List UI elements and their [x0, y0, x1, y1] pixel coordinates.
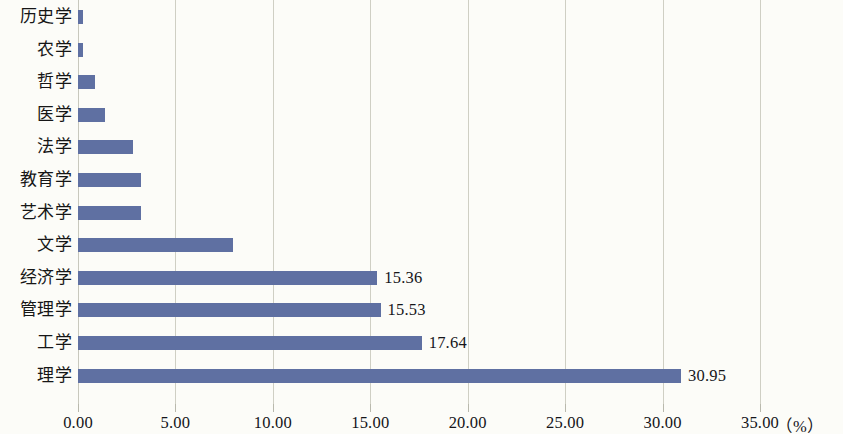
category-label: 经济学: [0, 262, 72, 295]
category-label: 文学: [0, 229, 72, 262]
bar-chart: 历史学农学哲学医学法学教育学艺术学文学经济学管理学工学理学 15.3615.53…: [0, 0, 843, 434]
x-tick-mark: [175, 404, 176, 412]
x-tick-label: 10.00: [254, 413, 292, 433]
bar-row: [78, 34, 760, 67]
bar: [78, 206, 141, 220]
bar-value-label: 15.36: [384, 268, 422, 288]
category-label: 农学: [0, 34, 72, 67]
x-tick-mark: [760, 404, 761, 412]
bar-row: [78, 131, 760, 164]
x-tick-mark: [663, 404, 664, 412]
x-tick-label: 5.00: [161, 413, 191, 433]
category-label: 法学: [0, 131, 72, 164]
x-axis: （%） 0.005.0010.0015.0020.0025.0030.0035.…: [0, 404, 843, 434]
bar-row: [78, 99, 760, 132]
gridline: [760, 0, 761, 404]
bar-value-label: 15.53: [388, 300, 426, 320]
bar: [78, 75, 95, 89]
category-label: 医学: [0, 99, 72, 132]
bar-row: 15.36: [78, 262, 760, 295]
category-label: 教育学: [0, 164, 72, 197]
bar-row: [78, 66, 760, 99]
plot-area: 15.3615.5317.6430.95: [78, 0, 760, 404]
x-tick-mark: [273, 404, 274, 412]
bar-row: 15.53: [78, 294, 760, 327]
category-label: 理学: [0, 360, 72, 393]
category-label: 哲学: [0, 66, 72, 99]
bar-row: [78, 197, 760, 230]
bar: [78, 140, 133, 154]
x-tick-label: 0.00: [63, 413, 93, 433]
bar: [78, 238, 233, 252]
category-label: 管理学: [0, 294, 72, 327]
bar: [78, 336, 422, 350]
x-axis-unit-label: （%）: [776, 413, 824, 434]
bar: [78, 303, 381, 317]
bar-value-label: 17.64: [429, 333, 467, 353]
bar-row: [78, 1, 760, 34]
x-tick-label: 30.00: [644, 413, 682, 433]
x-tick-label: 15.00: [351, 413, 389, 433]
x-tick-mark: [468, 404, 469, 412]
category-label: 历史学: [0, 1, 72, 34]
bar-row: [78, 229, 760, 262]
bar: [78, 369, 681, 383]
bar: [78, 10, 83, 24]
bar: [78, 43, 83, 57]
category-label: 艺术学: [0, 197, 72, 230]
category-label: 工学: [0, 327, 72, 360]
bar: [78, 173, 141, 187]
bar-value-label: 30.95: [688, 366, 726, 386]
x-tick-label: 20.00: [449, 413, 487, 433]
x-tick-mark: [565, 404, 566, 412]
x-tick-label: 35.00: [741, 413, 779, 433]
bar: [78, 271, 377, 285]
category-axis: 历史学农学哲学医学法学教育学艺术学文学经济学管理学工学理学: [0, 0, 72, 404]
bar-row: [78, 164, 760, 197]
bar: [78, 108, 105, 122]
x-tick-mark: [370, 404, 371, 412]
bar-row: 17.64: [78, 327, 760, 360]
bar-row: 30.95: [78, 360, 760, 393]
x-tick-mark: [78, 404, 79, 412]
x-tick-label: 25.00: [546, 413, 584, 433]
